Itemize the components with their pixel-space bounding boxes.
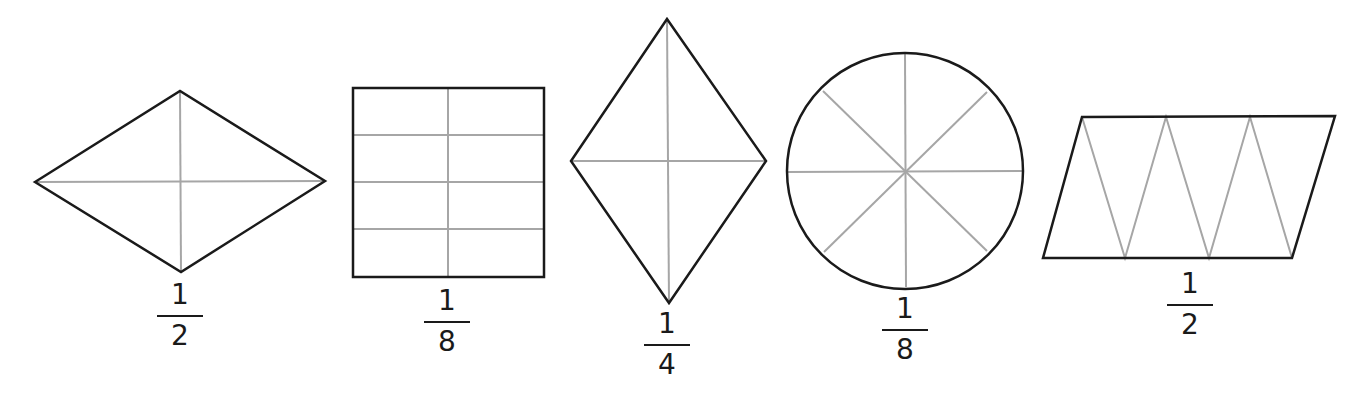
parallelogram-outline [1043, 116, 1335, 258]
figure-3-rhombus [571, 19, 766, 303]
fraction-label-3: 1 4 [637, 310, 697, 379]
figure-1-rhombus [35, 91, 325, 272]
figure-2-rectangle [353, 88, 544, 277]
fraction-bar [1167, 304, 1213, 306]
rhombus-vertical-diagonal [180, 91, 181, 272]
fraction-numerator: 1 [1160, 270, 1220, 298]
fraction-denominator: 2 [150, 322, 210, 350]
fraction-bar [157, 315, 203, 317]
fraction-numerator: 1 [417, 287, 477, 315]
fraction-numerator: 1 [637, 310, 697, 338]
fraction-label-1: 1 2 [150, 281, 210, 350]
rhombus-vertical-diagonal [667, 19, 669, 303]
fraction-bar [882, 329, 928, 331]
fraction-numerator: 1 [875, 295, 935, 323]
parallelogram-zigzag-dividers [1082, 117, 1292, 258]
fraction-label-2: 1 8 [417, 287, 477, 356]
fraction-denominator: 4 [637, 351, 697, 379]
fraction-numerator: 1 [150, 281, 210, 309]
fraction-label-5: 1 2 [1160, 270, 1220, 339]
fraction-label-4: 1 8 [875, 295, 935, 364]
fraction-denominator: 8 [875, 336, 935, 364]
fraction-bar [424, 321, 470, 323]
fraction-denominator: 2 [1160, 311, 1220, 339]
figure-5-parallelogram [1043, 116, 1335, 258]
fraction-bar [644, 344, 690, 346]
fraction-denominator: 8 [417, 328, 477, 356]
figure-4-circle [787, 53, 1023, 289]
